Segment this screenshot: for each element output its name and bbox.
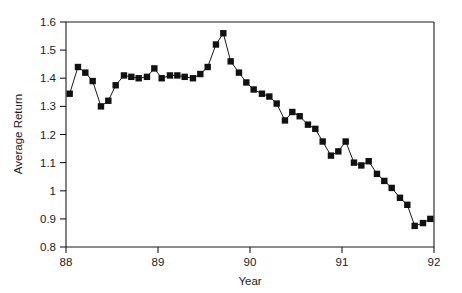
data-point	[411, 223, 417, 229]
data-point	[273, 100, 279, 106]
data-point	[227, 58, 233, 64]
x-tick-labels: 88 89 90 91 92	[60, 256, 441, 268]
data-point	[105, 98, 111, 104]
data-point	[282, 117, 288, 123]
data-point	[319, 138, 325, 144]
data-point	[342, 138, 348, 144]
x-axis-title: Year	[238, 275, 261, 287]
data-point	[112, 82, 118, 88]
y-tick-label-0.9: 0.9	[40, 213, 56, 225]
data-point	[404, 202, 410, 208]
data-point	[98, 103, 104, 109]
data-point	[75, 64, 81, 70]
data-point	[289, 109, 295, 115]
data-point	[236, 69, 242, 75]
y-tick-label-1.3: 1.3	[40, 100, 56, 112]
y-tick-label-1.1: 1.1	[40, 157, 56, 169]
data-point	[388, 185, 394, 191]
x-tick-label-90: 90	[244, 256, 257, 268]
x-tick-label-91: 91	[336, 256, 349, 268]
data-point	[266, 93, 272, 99]
data-point	[420, 220, 426, 226]
data-point	[328, 152, 334, 158]
x-tick-label-92: 92	[428, 256, 441, 268]
data-point	[89, 78, 95, 84]
data-point	[128, 74, 134, 80]
data-point	[250, 86, 256, 92]
data-point	[121, 72, 127, 78]
data-point	[296, 113, 302, 119]
data-point	[381, 178, 387, 184]
data-series-group	[66, 30, 433, 229]
data-point	[312, 126, 318, 132]
y-tick-label-1.4: 1.4	[40, 72, 57, 84]
data-point	[213, 41, 219, 47]
data-point	[204, 64, 210, 70]
y-tick-label-1: 1	[50, 185, 56, 197]
data-point	[427, 216, 433, 222]
data-point	[158, 75, 164, 81]
data-point	[374, 171, 380, 177]
data-point	[135, 75, 141, 81]
data-point	[190, 75, 196, 81]
data-point	[365, 158, 371, 164]
axes-lines	[66, 22, 434, 247]
series-line-average-return	[70, 33, 431, 226]
y-tick-label-0.8: 0.8	[40, 241, 56, 253]
data-point	[358, 162, 364, 168]
y-tick-label-1.5: 1.5	[40, 44, 56, 56]
data-point	[335, 148, 341, 154]
y-tick-label-1.2: 1.2	[40, 129, 56, 141]
y-axis-title: Average Return	[12, 94, 24, 174]
data-point	[351, 159, 357, 165]
x-tick-label-89: 89	[152, 256, 165, 268]
data-point	[66, 91, 72, 97]
x-tick-label-88: 88	[60, 256, 73, 268]
data-point	[181, 74, 187, 80]
x-tick-marks	[66, 247, 434, 253]
data-point	[174, 72, 180, 78]
data-point	[243, 79, 249, 85]
data-point	[397, 195, 403, 201]
y-tick-label-1.6: 1.6	[40, 16, 56, 28]
chart-figure: 1.6 1.5 1.4 1.3 1.2 1.1 1 0.9 0.8 88 89 …	[0, 0, 462, 293]
y-tick-marks	[60, 22, 66, 247]
data-point	[167, 72, 173, 78]
data-point	[82, 69, 88, 75]
y-tick-labels: 1.6 1.5 1.4 1.3 1.2 1.1 1 0.9 0.8	[40, 16, 57, 253]
series-markers	[66, 30, 433, 229]
data-point	[151, 65, 157, 71]
data-point	[220, 30, 226, 36]
data-point	[305, 121, 311, 127]
data-point	[259, 91, 265, 97]
average-return-line-chart: 1.6 1.5 1.4 1.3 1.2 1.1 1 0.9 0.8 88 89 …	[0, 0, 462, 293]
data-point	[144, 74, 150, 80]
data-point	[197, 71, 203, 77]
